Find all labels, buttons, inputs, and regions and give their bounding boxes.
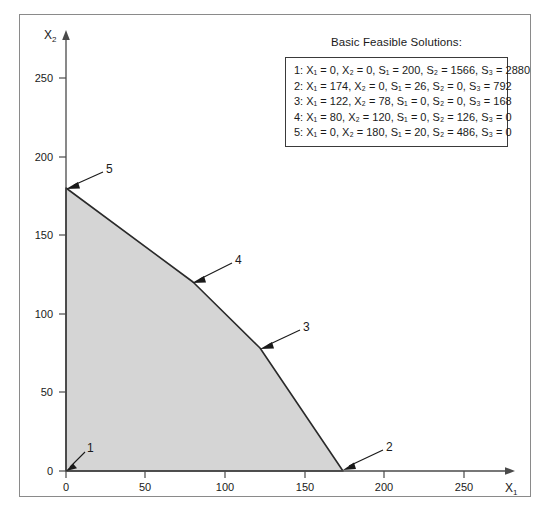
x-axis-title-sub: 1 xyxy=(513,488,518,497)
x-tick-label-0: 0 xyxy=(63,481,69,493)
vertex-label-5: 5 xyxy=(106,162,113,176)
figure-container: 0 50 100 150 200 250 0 50 100 150 200 25… xyxy=(0,0,552,521)
legend-box: 1: X₁ = 0, X₂ = 0, S₁ = 200, S₂ = 1566, … xyxy=(285,57,508,147)
x-tick-label-100: 100 xyxy=(216,481,234,493)
y-tick-label-50: 50 xyxy=(41,386,53,398)
x-axis-title: X1 xyxy=(505,481,518,497)
feasible-region-polygon xyxy=(66,188,343,471)
y-tick-label-100: 100 xyxy=(35,308,53,320)
legend-row-5: 5: X₁ = 0, X₂ = 180, S₁ = 20, S₂ = 486, … xyxy=(294,125,500,141)
x-tick-label-250: 250 xyxy=(455,481,473,493)
vertex-label-1: 1 xyxy=(87,441,94,455)
callout-line-3 xyxy=(268,330,300,345)
legend-row-2: 2: X₁ = 174, X₂ = 0, S₁ = 26, S₂ = 0, S₃… xyxy=(294,79,500,95)
legend-row-4: 4: X₁ = 80, X₂ = 120, S₁ = 0, S₂ = 126, … xyxy=(294,110,500,126)
x-tick-label-50: 50 xyxy=(139,481,151,493)
callout-arrow-4 xyxy=(192,276,206,283)
x-axis-ticks xyxy=(66,471,464,478)
legend-row-3: 3: X₁ = 122, X₂ = 78, S₁ = 0, S₂ = 0, S₃… xyxy=(294,94,500,110)
y-axis-title: X2 xyxy=(44,28,57,44)
callout-line-4 xyxy=(200,263,232,279)
callout-line-5 xyxy=(74,172,103,185)
y-tick-label-150: 150 xyxy=(35,229,53,241)
y-tick-label-250: 250 xyxy=(35,72,53,84)
x-tick-label-200: 200 xyxy=(375,481,393,493)
y-axis-title-sub: 2 xyxy=(52,35,57,44)
y-axis-title-text: X xyxy=(44,28,52,42)
callout-arrow-2 xyxy=(343,463,356,471)
x-axis-title-text: X xyxy=(505,481,513,495)
legend-row-1: 1: X₁ = 0, X₂ = 0, S₁ = 200, S₂ = 1566, … xyxy=(294,63,500,79)
y-axis-arrowhead xyxy=(62,30,70,40)
callout-arrow-3 xyxy=(260,342,274,349)
vertex-label-2: 2 xyxy=(386,440,393,454)
legend-title: Basic Feasible Solutions: xyxy=(285,36,508,48)
x-tick-label-150: 150 xyxy=(296,481,314,493)
y-tick-label-200: 200 xyxy=(35,151,53,163)
vertex-label-4: 4 xyxy=(235,253,242,267)
callout-arrow-5 xyxy=(66,182,80,189)
y-axis-ticks xyxy=(59,78,66,471)
x-axis-arrowhead xyxy=(505,467,515,475)
y-tick-label-0: 0 xyxy=(47,465,53,477)
vertex-label-3: 3 xyxy=(303,320,310,334)
